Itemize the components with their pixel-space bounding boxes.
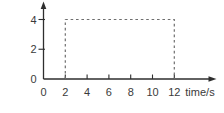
- axes-plot: 024681012024time/s: [0, 0, 224, 113]
- x-tick-label: 4: [84, 86, 90, 98]
- x-tick-label: 6: [106, 86, 112, 98]
- x-tick-label: 10: [146, 86, 158, 98]
- x-axis-label: time/s: [185, 86, 215, 98]
- y-tick-label: 4: [30, 14, 36, 26]
- y-tick-label: 2: [30, 43, 36, 55]
- x-tick-label: 0: [40, 86, 46, 98]
- pulse-time-chart: 024681012024time/s: [0, 0, 224, 113]
- y-tick-label: 0: [30, 73, 36, 85]
- pulse-outline: [65, 20, 174, 80]
- y-axis-arrowhead: [41, 2, 47, 10]
- x-tick-label: 12: [168, 86, 180, 98]
- x-axis-arrowhead: [209, 76, 217, 82]
- x-tick-label: 8: [128, 86, 134, 98]
- x-tick-label: 2: [62, 86, 68, 98]
